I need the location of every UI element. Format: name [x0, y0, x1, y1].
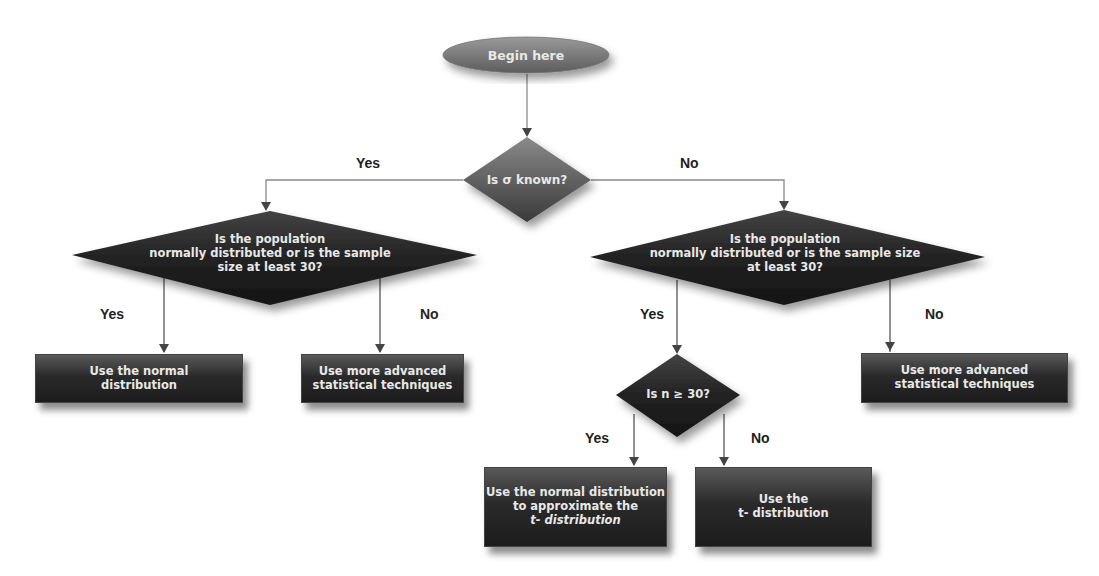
- arrowhead-icon: [522, 128, 532, 137]
- decision-right-line-2: normally distributed or is the sample si…: [650, 247, 921, 261]
- decision-left-line-1: Is the population: [215, 233, 325, 247]
- edge-sigma-yes: [266, 180, 463, 209]
- outcome-advanced-right: Use more advanced statistical techniques: [861, 353, 1068, 403]
- decision-n: Is n ≥ 30?: [620, 383, 736, 407]
- outcome-advanced-right-line-1: Use more advanced: [901, 364, 1029, 378]
- arrowhead-icon: [779, 201, 789, 210]
- decision-sigma: Is σ known?: [463, 160, 591, 200]
- label-n-yes: Yes: [585, 430, 609, 446]
- label-n-no: No: [751, 430, 770, 446]
- label-right-no: No: [925, 306, 944, 322]
- start-node-label: Begin here: [488, 48, 565, 63]
- outcome-use-normal-line-1: Use the normal: [90, 365, 189, 379]
- start-node: Begin here: [443, 37, 609, 73]
- label-right-yes: Yes: [640, 306, 664, 322]
- arrowhead-icon: [375, 344, 385, 353]
- decision-left-line-3: size at least 30?: [217, 261, 322, 275]
- outcome-use-normal-line-2: distribution: [101, 379, 177, 393]
- outcome-advanced-left: Use more advanced statistical techniques: [301, 354, 464, 403]
- outcome-advanced-right-line-2: statistical techniques: [895, 378, 1035, 392]
- decision-sigma-label: Is σ known?: [487, 173, 568, 187]
- arrowhead-icon: [719, 457, 729, 466]
- decision-left-line-2: normally distributed or is the sample: [149, 247, 390, 261]
- decision-right: Is the population normally distributed o…: [624, 226, 946, 282]
- arrowhead-icon: [672, 345, 682, 354]
- edge-sigma-no: [591, 180, 784, 208]
- arrowhead-icon: [261, 202, 271, 211]
- outcome-use-t-line-1: Use the: [759, 493, 808, 507]
- decision-right-line-3: at least 30?: [747, 261, 823, 275]
- outcome-normal-approx-t-line-2: to approximate the: [513, 500, 638, 514]
- decision-right-line-1: Is the population: [730, 233, 840, 247]
- label-sigma-no: No: [680, 155, 699, 171]
- arrowhead-icon: [885, 342, 895, 351]
- arrowhead-icon: [629, 457, 639, 466]
- decision-n-label: Is n ≥ 30?: [646, 388, 710, 402]
- outcome-advanced-left-line-2: statistical techniques: [313, 379, 453, 393]
- outcome-use-t: Use the t- distribution: [695, 467, 872, 547]
- label-left-yes: Yes: [100, 306, 124, 322]
- outcome-use-t-line-2: t- distribution: [738, 507, 828, 521]
- label-left-no: No: [420, 306, 439, 322]
- arrowhead-icon: [159, 344, 169, 353]
- label-sigma-yes: Yes: [356, 155, 380, 171]
- outcome-normal-approx-t-line-1: Use the normal distribution: [486, 486, 665, 500]
- outcome-use-normal: Use the normal distribution: [35, 354, 243, 403]
- outcome-normal-approx-t-line-3: t- distribution: [530, 514, 620, 528]
- outcome-normal-approx-t: Use the normal distribution to approxima…: [484, 467, 667, 547]
- decision-left: Is the population normally distributed o…: [110, 226, 430, 282]
- outcome-advanced-left-line-1: Use more advanced: [319, 365, 447, 379]
